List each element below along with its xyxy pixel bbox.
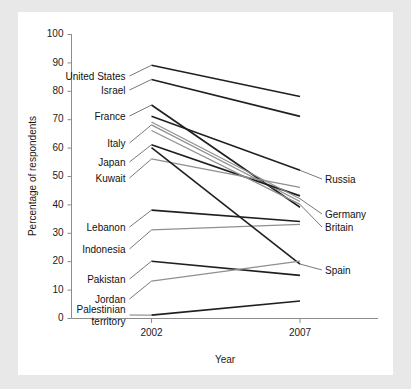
y-tick-label: 50 [52,170,64,181]
slope-line [152,210,301,221]
leader-line [130,210,152,227]
series-label-pakistan: Pakistan [87,274,125,285]
slope-line [152,261,301,281]
x-tick-label: 2002 [140,327,163,338]
leader-line [130,125,152,143]
y-tick-label: 90 [52,57,64,68]
series-label-spain: Spain [325,265,351,276]
slope-line [152,224,301,230]
leader-line [300,170,322,179]
leader-line [130,261,152,279]
series-lines [152,65,301,315]
leader-line [130,105,152,116]
series-label-russia: Russia [325,174,356,185]
x-axis-title: Year [215,354,236,365]
y-tick-label: 80 [52,85,64,96]
slope-line [152,65,301,96]
slope-line [152,148,301,264]
y-tick-label: 10 [52,284,64,295]
leader-line [130,145,152,162]
slope-line [152,116,301,170]
series-label-britain: Britain [325,222,353,233]
series-label-palestinian-territory: Palestinianterritory [77,304,126,327]
label-leader-lines [130,65,323,315]
leader-line [300,264,322,270]
y-tick-label: 40 [52,199,64,210]
y-tick-label: 60 [52,142,64,153]
slope-line [152,145,301,196]
y-tick-label: 70 [52,113,64,124]
slope-line [152,105,301,207]
leader-line [130,159,152,178]
y-tick-label: 0 [58,312,64,323]
slope-line [152,122,301,199]
y-tick-label: 30 [52,227,64,238]
leader-line [300,199,322,214]
y-tick-label: 20 [52,255,64,266]
series-label-japan: Japan [98,157,125,168]
slope-line [152,131,301,205]
series-label-kuwait: Kuwait [95,173,125,184]
screenshot-root: 0102030405060708090100 20022007 Percenta… [0,0,411,389]
series-label-indonesia: Indonesia [82,244,126,255]
chart-card: 0102030405060708090100 20022007 Percenta… [18,12,393,375]
slopegraph: 0102030405060708090100 20022007 Percenta… [18,12,393,375]
series-label-germany: Germany [325,209,366,220]
x-tick-label: 2007 [289,327,312,338]
slope-line [152,79,301,116]
series-label-italy: Italy [107,138,125,149]
leader-line [130,281,152,299]
x-axis-ticks: 20022007 [140,319,311,339]
series-label-israel: Israel [101,85,125,96]
leader-line [130,230,152,249]
series-label-france: France [94,111,126,122]
slope-line [152,261,301,275]
leader-line [130,79,152,90]
series-label-united-states: United States [65,71,125,82]
series-label-lebanon: Lebanon [87,222,126,233]
leader-line [300,204,322,227]
slope-line [152,301,301,315]
leader-line [130,65,152,76]
y-tick-label: 100 [47,28,64,39]
y-axis-title: Percentage of respondents [27,116,38,236]
